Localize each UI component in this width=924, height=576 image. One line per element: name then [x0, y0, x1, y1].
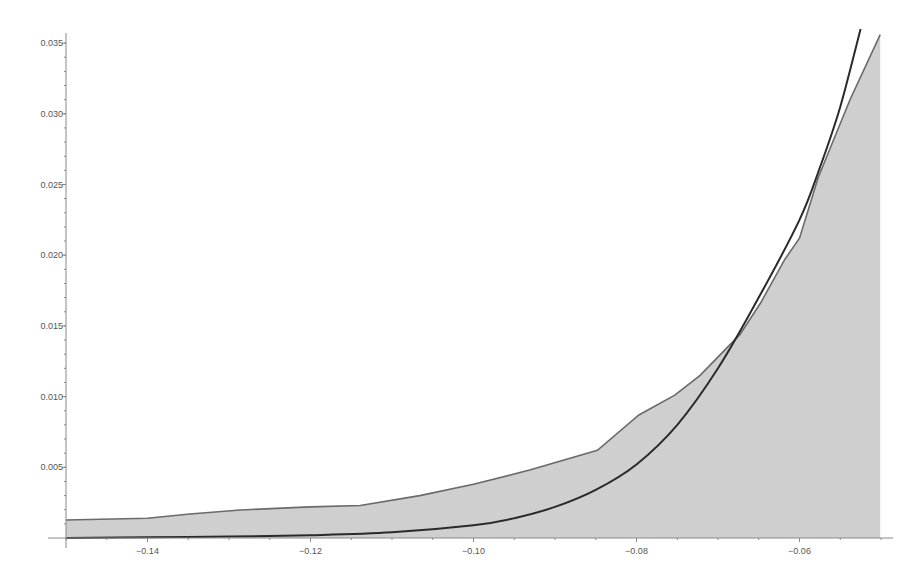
y-tick-label: 0.015 — [40, 321, 63, 331]
y-tick-label: 0.025 — [40, 180, 63, 190]
y-tick-label: 0.020 — [40, 250, 63, 260]
x-tick-label: −0.08 — [625, 546, 648, 556]
x-tick-label: −0.10 — [462, 546, 485, 556]
empirical-area-fill — [66, 35, 880, 538]
y-tick-label: 0.005 — [40, 462, 63, 472]
x-tick-label: −0.14 — [136, 546, 159, 556]
y-tick-label: 0.030 — [40, 109, 63, 119]
plot-area — [66, 29, 880, 538]
y-tick-label: 0.010 — [40, 392, 63, 402]
chart: −0.14−0.12−0.10−0.08−0.06 0.0050.0100.01… — [0, 0, 924, 576]
y-tick-label: 0.035 — [40, 38, 63, 48]
x-tick-label: −0.06 — [788, 546, 811, 556]
y-axis: 0.0050.0100.0150.0200.0250.0300.035 — [40, 33, 66, 548]
x-tick-label: −0.12 — [299, 546, 322, 556]
x-axis: −0.14−0.12−0.10−0.08−0.06 — [48, 538, 893, 556]
